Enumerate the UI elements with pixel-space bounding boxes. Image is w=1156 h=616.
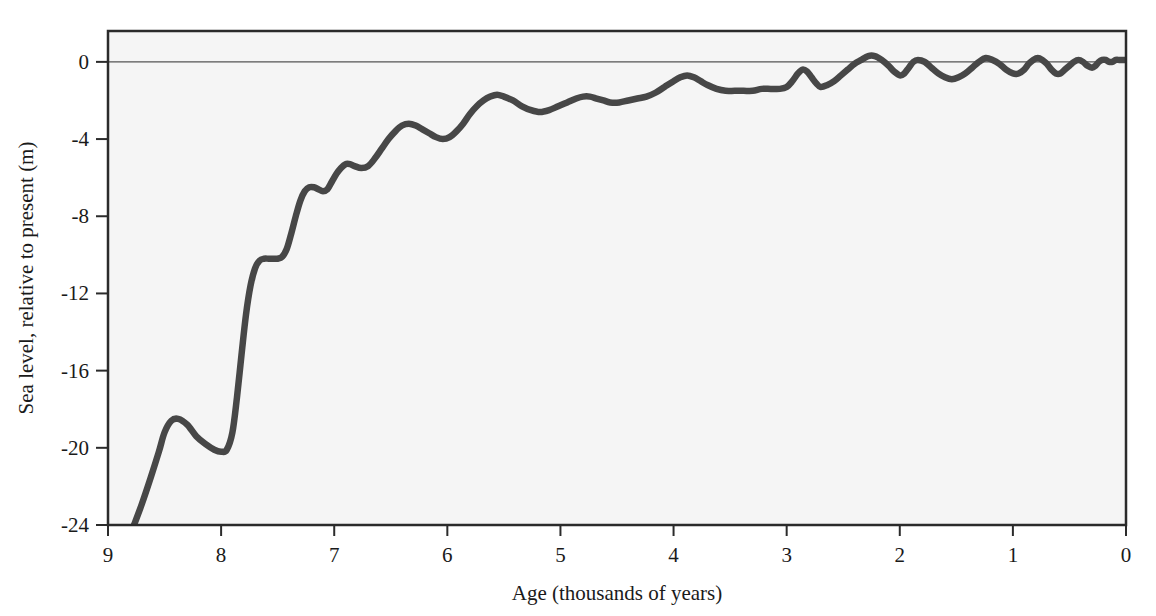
y-tick-label: -20: [61, 436, 89, 460]
chart-canvas: 9876543210 0-4-8-12-16-20-24 Age (thousa…: [0, 0, 1156, 616]
y-tick-label: 0: [79, 50, 90, 74]
x-tick-label: 5: [555, 543, 566, 567]
x-tick-label: 9: [103, 543, 114, 567]
y-tick-label: -8: [72, 204, 90, 228]
x-tick-label: 4: [668, 543, 679, 567]
y-tick-label: -16: [61, 359, 89, 383]
x-tick-label: 3: [781, 543, 792, 567]
x-tick-label: 2: [895, 543, 906, 567]
x-tick-label: 0: [1121, 543, 1132, 567]
y-tick-label: -4: [72, 127, 90, 151]
y-axis-title: Sea level, relative to present (m): [14, 142, 38, 415]
x-axis-title: Age (thousands of years): [512, 581, 723, 605]
x-tick-label: 7: [329, 543, 340, 567]
y-tick-label: -24: [61, 513, 89, 537]
sea-level-chart-figure: 9876543210 0-4-8-12-16-20-24 Age (thousa…: [0, 0, 1156, 616]
x-tick-label: 1: [1008, 543, 1019, 567]
y-tick-label: -12: [61, 281, 89, 305]
x-tick-label: 6: [442, 543, 453, 567]
x-tick-label: 8: [216, 543, 227, 567]
